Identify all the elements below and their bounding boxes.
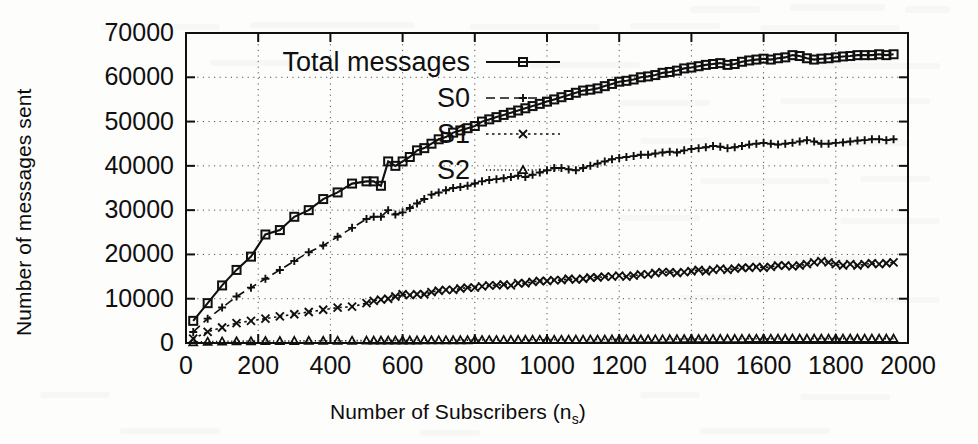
marker-triangle <box>724 335 732 342</box>
marker-cross <box>319 306 327 314</box>
marker-plus <box>478 177 486 185</box>
data-series-s1 <box>189 257 897 343</box>
marker-cross <box>550 276 558 284</box>
marker-plus <box>853 137 861 145</box>
marker-cross <box>514 279 522 287</box>
marker-plus <box>868 135 876 143</box>
marker-plus <box>420 195 428 203</box>
marker-plus <box>724 144 732 152</box>
y-tick-label: 40000 <box>104 151 174 179</box>
marker-cross <box>290 310 298 318</box>
marker-triangle <box>882 335 890 342</box>
marker-triangle <box>507 336 515 343</box>
marker-triangle <box>519 166 527 173</box>
marker-cross <box>716 265 724 273</box>
marker-cross <box>752 263 760 271</box>
marker-cross <box>449 286 457 294</box>
marker-plus <box>507 173 515 181</box>
marker-triangle <box>788 335 796 342</box>
x-tick-label: 1400 <box>664 351 720 379</box>
marker-plus <box>276 266 284 274</box>
x-tick-label: 1200 <box>591 351 647 379</box>
marker-triangle <box>731 335 739 342</box>
marker-plus <box>485 176 493 184</box>
x-tick-label: 200 <box>237 351 279 379</box>
marker-plus <box>774 141 782 149</box>
y-axis-title-text: Number of messages sent <box>12 89 35 336</box>
marker-triangle <box>868 335 876 342</box>
series-line <box>193 54 893 321</box>
y-tick-label: 70000 <box>104 18 174 46</box>
marker-triangle <box>716 335 724 342</box>
marker-triangle <box>572 336 580 343</box>
x-tick-label: 2000 <box>880 351 936 379</box>
marker-plus <box>666 148 674 156</box>
marker-plus <box>615 154 623 162</box>
marker-plus <box>348 224 356 232</box>
marker-plus <box>586 162 594 170</box>
marker-cross <box>608 273 616 281</box>
marker-cross <box>406 291 414 299</box>
marker-triangle <box>651 335 659 342</box>
marker-plus <box>572 166 580 174</box>
plot-area: 0100002000030000400005000060000700000200… <box>0 0 978 444</box>
marker-plus <box>695 144 703 152</box>
x-axis-title-text: Number of Subscribers (n <box>330 400 572 423</box>
marker-cross <box>543 277 551 285</box>
marker-cross <box>810 258 818 266</box>
legend: Total messagesS0S1S2 <box>282 47 560 185</box>
marker-triangle <box>796 335 804 342</box>
marker-cross <box>781 262 789 270</box>
marker-plus <box>449 184 457 192</box>
marker-plus <box>659 149 667 157</box>
marker-cross <box>485 281 493 289</box>
x-tick-label: 1600 <box>736 351 792 379</box>
marker-plus <box>630 152 638 160</box>
marker-plus <box>608 155 616 163</box>
marker-plus <box>406 204 414 212</box>
series-line <box>193 139 893 332</box>
x-tick-label: 400 <box>310 351 352 379</box>
marker-plus <box>832 139 840 147</box>
axis-ticks: 0100002000030000400005000060000700000200… <box>104 18 935 379</box>
marker-cross <box>478 282 486 290</box>
x-tick-label: 0 <box>179 351 193 379</box>
marker-triangle <box>738 335 746 342</box>
marker-triangle <box>803 335 811 342</box>
x-tick-label: 1000 <box>519 351 575 379</box>
marker-cross <box>875 260 883 268</box>
y-axis-title: Number of messages sent <box>12 89 36 336</box>
x-tick-label: 1800 <box>808 351 864 379</box>
marker-triangle <box>781 335 789 342</box>
marker-cross <box>579 275 587 283</box>
marker-triangle <box>637 335 645 342</box>
marker-triangle <box>702 335 710 342</box>
marker-cross <box>738 264 746 272</box>
marker-plus <box>709 142 717 150</box>
marker-cross <box>204 328 212 336</box>
marker-plus <box>825 140 833 148</box>
marker-triangle <box>521 336 529 343</box>
marker-plus <box>803 136 811 144</box>
marker-plus <box>471 180 479 188</box>
marker-cross <box>839 262 847 270</box>
marker-plus <box>882 136 890 144</box>
marker-plus <box>247 284 255 292</box>
marker-plus <box>579 164 587 172</box>
marker-plus <box>680 146 688 154</box>
marker-cross <box>536 277 544 285</box>
marker-cross <box>586 273 594 281</box>
marker-plus <box>622 153 630 161</box>
x-tick-label: 800 <box>454 351 496 379</box>
marker-plus <box>557 164 565 172</box>
marker-plus <box>810 138 818 146</box>
y-tick-label: 10000 <box>104 284 174 312</box>
marker-plus <box>839 138 847 146</box>
marker-plus <box>427 191 435 199</box>
chart-figure: 0100002000030000400005000060000700000200… <box>0 0 978 444</box>
marker-plus <box>687 145 695 153</box>
marker-cross <box>774 262 782 270</box>
marker-plus <box>875 135 883 143</box>
marker-triangle <box>861 335 869 342</box>
marker-cross <box>348 303 356 311</box>
